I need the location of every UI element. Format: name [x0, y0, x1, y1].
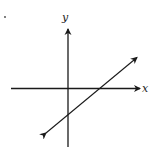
coordinate-diagram: x y [0, 0, 154, 161]
x-axis-label: x [142, 82, 149, 95]
y-axis-label: y [61, 11, 69, 24]
stray-dot [4, 16, 6, 18]
plotted-line [46, 58, 137, 134]
